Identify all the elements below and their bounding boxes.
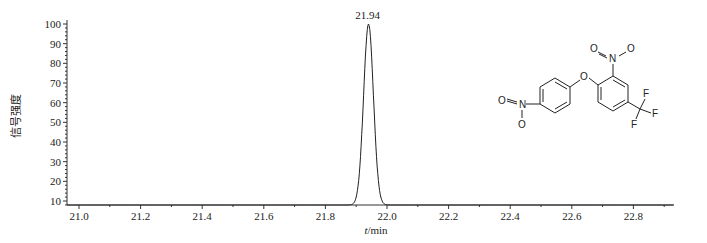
x-tick-label: 22.4 xyxy=(501,210,521,222)
x-tick-label: 22.6 xyxy=(562,210,582,222)
y-tick-label: 80 xyxy=(50,57,62,69)
y-tick-label: 100 xyxy=(45,18,62,30)
svg-text:N: N xyxy=(609,53,616,64)
x-tick-label: 21.6 xyxy=(254,210,274,222)
y-axis-label: 信号强度 xyxy=(9,94,23,138)
chromatogram-trace xyxy=(67,24,673,205)
svg-text:F: F xyxy=(643,88,649,99)
y-tick-label: 30 xyxy=(50,156,62,168)
svg-text:O: O xyxy=(580,71,588,82)
chromatogram-chart: 102030405060708090100 21.021.221.421.621… xyxy=(0,0,707,243)
y-tick-label: 10 xyxy=(50,195,62,207)
x-tick-label: 22.0 xyxy=(377,210,397,222)
svg-text:O: O xyxy=(498,95,506,106)
peak-label: 21.94 xyxy=(355,9,380,21)
x-tick-label: 21.8 xyxy=(316,210,336,222)
y-tick-label: 60 xyxy=(50,97,62,109)
y-tick-label: 90 xyxy=(50,38,62,50)
x-tick-label: 21.2 xyxy=(131,210,150,222)
x-tick-label: 21.4 xyxy=(193,210,213,222)
svg-text:F: F xyxy=(631,119,637,130)
svg-text:O: O xyxy=(518,119,526,130)
chemical-structure: N O O O N O O F F F xyxy=(498,43,658,130)
x-ticks: 21.021.221.421.621.822.022.222.422.622.8 xyxy=(69,205,664,222)
y-tick-label: 70 xyxy=(50,77,62,89)
svg-text:F: F xyxy=(652,108,658,119)
x-tick-label: 22.8 xyxy=(624,210,644,222)
x-tick-label: 22.2 xyxy=(439,210,458,222)
svg-text:O: O xyxy=(590,43,598,54)
x-axis-label: t/min xyxy=(364,224,388,236)
axes xyxy=(67,20,674,205)
svg-text:N: N xyxy=(519,99,526,110)
y-tick-label: 50 xyxy=(50,116,62,128)
y-tick-label: 40 xyxy=(50,136,62,148)
svg-text:O: O xyxy=(627,43,635,54)
y-tick-label: 20 xyxy=(50,175,62,187)
x-tick-label: 21.0 xyxy=(69,210,89,222)
y-ticks: 102030405060708090100 xyxy=(45,18,68,207)
